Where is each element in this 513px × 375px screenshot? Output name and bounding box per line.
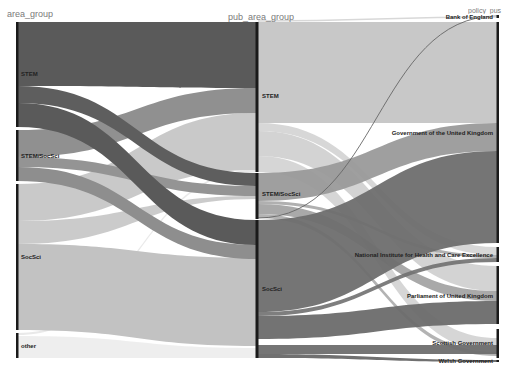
label-right-parliament: Parliament of United Kingdom <box>407 293 493 299</box>
node-right-parliament[interactable] <box>497 266 500 324</box>
label-left-stem: STEM <box>21 71 38 77</box>
label-right-scottish: Scottish Government <box>432 340 493 346</box>
link-socsci-socsci[interactable] <box>18 244 256 346</box>
node-mid-stemsocsci[interactable] <box>256 173 259 219</box>
label-left-stemsocsci: STEM/SocSci <box>21 153 59 159</box>
node-mid-socsci[interactable] <box>256 220 259 358</box>
node-right-nice[interactable] <box>497 247 500 262</box>
node-left-stem[interactable] <box>16 22 19 127</box>
link-socsci-scottish[interactable] <box>258 345 497 354</box>
node-mid-stem[interactable] <box>256 22 259 172</box>
label-right-boe: Bank of England <box>446 14 493 20</box>
node-right-boe[interactable] <box>497 15 500 18</box>
node-right-welsh[interactable] <box>497 360 500 362</box>
link-stem-stem[interactable] <box>18 22 256 88</box>
label-right-govuk: Government of the United Kingdom <box>392 130 493 136</box>
label-mid-stemsocsci: STEM/SocSci <box>262 191 300 197</box>
label-mid-socsci: SocSci <box>262 286 282 292</box>
axis-title-pub-area-group: pub_area_group <box>228 12 294 22</box>
label-left-socsci: SocSci <box>21 254 41 260</box>
label-mid-stem: STEM <box>262 93 279 99</box>
node-right-scottish[interactable] <box>497 329 500 358</box>
link-stem-govuk[interactable] <box>258 22 497 123</box>
axis-title-area-group: area_group <box>7 9 53 19</box>
sankey-diagram <box>0 0 513 375</box>
node-left-socsci[interactable] <box>16 184 19 330</box>
label-right-nice: National Institute for Health and Care E… <box>355 252 493 258</box>
stage1-links <box>18 22 256 358</box>
node-right-govuk[interactable] <box>497 22 500 243</box>
label-left-other: other <box>21 343 36 349</box>
node-left-stemsocsci[interactable] <box>16 130 19 181</box>
axis-title-policy-pus: policy_pus <box>468 7 513 14</box>
stage2-links <box>258 16 497 362</box>
label-right-welsh: Welsh Government <box>438 358 493 364</box>
node-left-other[interactable] <box>16 333 19 358</box>
